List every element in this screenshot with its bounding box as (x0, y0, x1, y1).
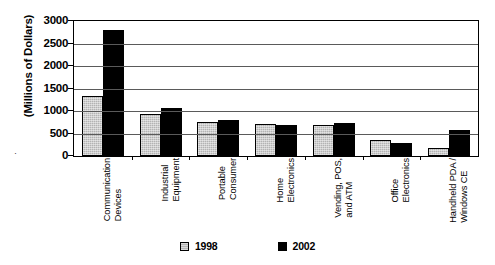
x-category-label: Handheld PDA /Windows CE (448, 158, 469, 223)
bar-1998 (140, 114, 161, 156)
bar-1998 (197, 122, 218, 156)
bar-1998 (428, 148, 449, 156)
bar-2002 (103, 30, 124, 156)
y-tick-label: 500 (26, 127, 68, 139)
x-category-label-line: Office (390, 158, 401, 202)
bar-2002 (161, 108, 182, 156)
x-category-label-line: Portable (217, 158, 228, 200)
gridline (74, 89, 478, 90)
x-category-label-line: Devices (112, 158, 123, 221)
x-category-cell: OfficeElectronics (362, 158, 420, 236)
x-category-label-line: Communication (102, 158, 113, 221)
x-category-label-line: Handheld PDA / (448, 158, 459, 223)
y-tick-label: 3000 (26, 14, 68, 26)
bar-1998 (370, 140, 391, 156)
legend-label: 2002 (293, 240, 316, 252)
plot-area (73, 20, 479, 157)
legend-item-2002[interactable]: 2002 (278, 240, 316, 252)
gridline (74, 44, 478, 45)
x-category-cell: Vending, POS,and ATM (304, 158, 362, 236)
legend-swatch-icon (278, 242, 287, 251)
x-category-label: CommunicationDevices (102, 158, 123, 221)
bar-2002 (276, 125, 297, 157)
gridline (74, 111, 478, 112)
x-category-label-line: Electronics (401, 158, 412, 202)
y-tick-label: 2500 (26, 37, 68, 49)
x-category-label-line: Equipment (170, 158, 181, 202)
y-tick-label: 1500 (26, 82, 68, 94)
x-category-label-line: Electronics (286, 158, 297, 202)
y-tick-label: 2000 (26, 59, 68, 71)
bar-1998 (82, 96, 103, 156)
x-category-label-line: Home (275, 158, 286, 202)
bar-2002 (391, 143, 412, 156)
x-axis-category-labels: CommunicationDevicesIndustrialEquipmentP… (73, 158, 477, 236)
x-category-label-line: Consumer (228, 158, 239, 200)
x-category-cell: IndustrialEquipment (131, 158, 189, 236)
x-category-cell: PortableConsumer (188, 158, 246, 236)
x-category-label: IndustrialEquipment (160, 158, 181, 202)
y-axis-tick-labels: 050010001500200025003000 (26, 14, 68, 161)
x-category-label-line: Industrial (160, 158, 171, 202)
chart-legend: 19982002 (0, 240, 495, 252)
x-category-cell: CommunicationDevices (73, 158, 131, 236)
legend-label: 1998 (195, 240, 218, 252)
x-category-label: Vending, POS,and ATM (333, 158, 354, 218)
legend-swatch-icon (180, 242, 189, 251)
y-tick-label: 0 (26, 149, 68, 161)
gridline (74, 134, 478, 135)
bar-1998 (313, 125, 334, 156)
bar-chart: (Millions of Dollars) · 0500100015002000… (0, 0, 495, 265)
bar-2002 (334, 123, 355, 156)
x-category-cell: HomeElectronics (246, 158, 304, 236)
x-category-label-line: and ATM (343, 158, 354, 218)
y-tick-label: 1000 (26, 104, 68, 116)
x-category-label: OfficeElectronics (390, 158, 411, 202)
stray-mark: · (14, 148, 17, 158)
legend-item-1998[interactable]: 1998 (180, 240, 218, 252)
x-category-label-line: Vending, POS, (333, 158, 344, 218)
x-category-cell: Handheld PDA /Windows CE (419, 158, 477, 236)
bar-2002 (218, 120, 239, 156)
x-category-label-line: Windows CE (459, 158, 470, 223)
bar-1998 (255, 124, 276, 156)
x-category-label: PortableConsumer (217, 158, 238, 200)
x-category-label: HomeElectronics (275, 158, 296, 202)
gridline (74, 66, 478, 67)
